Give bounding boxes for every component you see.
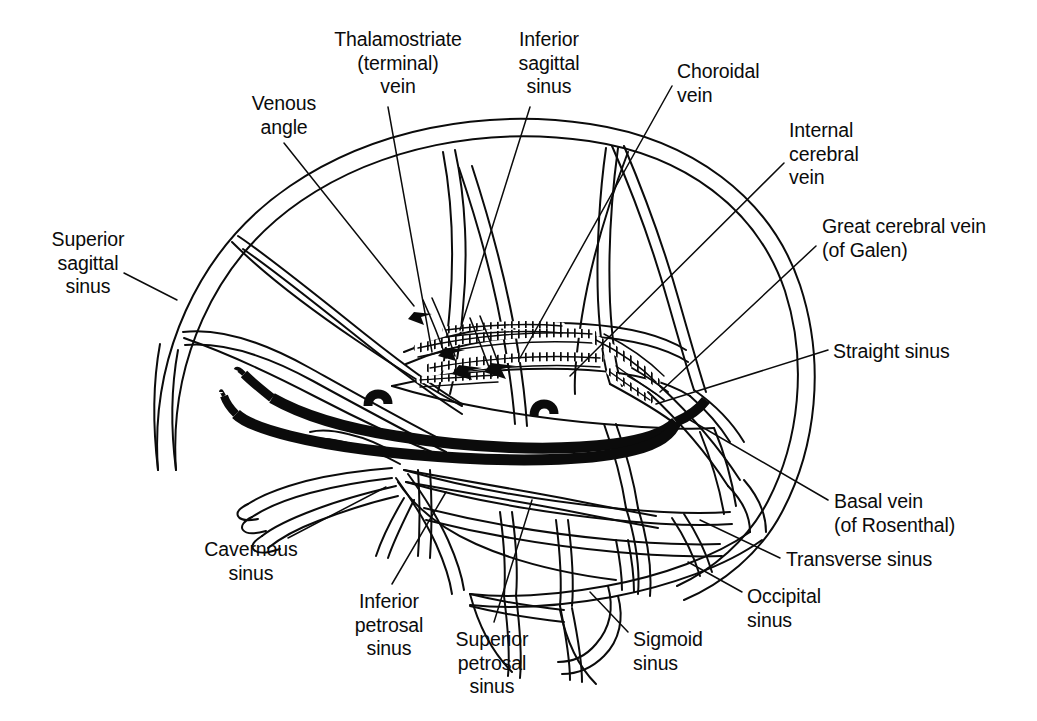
sigmoid-sinus: [558, 586, 621, 674]
label-occipital-sinus: Occipital sinus: [747, 585, 867, 632]
label-great-cerebral-vein: Great cerebral vein (of Galen): [822, 215, 1037, 262]
confluence-of-sinuses: [728, 480, 766, 532]
label-superior-petrosal-sinus: Superior petrosal sinus: [437, 628, 547, 699]
label-choroidal-vein: Choroidal vein: [677, 60, 807, 107]
leader-thalamostriate-vein: [388, 107, 432, 352]
label-superior-sagittal-sinus: Superior sagittal sinus: [28, 228, 148, 299]
label-inferior-sagittal-sinus: Inferior sagittal sinus: [495, 28, 603, 99]
choroidal-vein: [418, 325, 664, 400]
anatomical-figure: Venous angle Thalamostriate (terminal) v…: [0, 0, 1037, 721]
label-venous-angle: Venous angle: [224, 92, 344, 139]
leader-venous-angle: [284, 143, 414, 306]
label-inferior-petrosal-sinus: Inferior petrosal sinus: [334, 590, 444, 661]
label-basal-vein: Basal vein (of Rosenthal): [834, 490, 1014, 537]
label-sigmoid-sinus: Sigmoid sinus: [633, 628, 753, 675]
label-straight-sinus: Straight sinus: [833, 340, 993, 364]
label-cavernous-sinus: Cavernous sinus: [186, 538, 316, 585]
leader-choroidal-vein: [520, 86, 672, 358]
label-internal-cerebral-vein: Internal cerebral vein: [789, 119, 909, 190]
basal-vein: [221, 369, 706, 460]
label-transverse-sinus: Transverse sinus: [786, 548, 976, 572]
leader-transverse-sinus: [700, 520, 780, 558]
label-thalamostriate-vein: Thalamostriate (terminal) vein: [318, 28, 478, 99]
